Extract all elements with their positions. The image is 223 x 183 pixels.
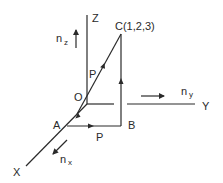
z-axis-label: Z <box>92 12 99 24</box>
point-a-label: A <box>53 119 61 131</box>
vector-oc: P <box>77 34 121 114</box>
ny-base-label: n <box>181 85 187 97</box>
vector-oc-label: P <box>89 68 96 80</box>
nx-base-label: n <box>60 153 66 165</box>
z-axis: Z <box>87 12 99 104</box>
segment-bc <box>119 34 124 126</box>
y-axis: Y <box>87 100 210 112</box>
vector-ab-label: P <box>96 131 103 143</box>
nx-sub-label: x <box>68 158 72 167</box>
vector-diagram: Z Y X n z n y n x P P <box>0 0 223 183</box>
unit-vector-nx: n x <box>53 140 72 167</box>
point-o-label: O <box>74 91 83 103</box>
arrowhead-icon <box>100 63 105 69</box>
x-axis-label: X <box>13 166 21 178</box>
vector-ab: P <box>67 124 121 144</box>
nz-base-label: n <box>56 32 62 44</box>
unit-vector-ny: n y <box>141 85 193 99</box>
arrow-down-left-icon <box>53 140 67 154</box>
y-axis-label: Y <box>202 100 210 112</box>
arrowhead-icon <box>119 78 124 84</box>
x-axis: X <box>13 104 87 178</box>
unit-vector-nz: n z <box>56 30 76 48</box>
diagram-canvas: Z Y X n z n y n x P P <box>0 0 223 183</box>
ny-sub-label: y <box>189 90 193 99</box>
nz-sub-label: z <box>64 38 68 47</box>
point-c-label: C(1,2,3) <box>115 20 155 32</box>
arrowhead-icon <box>88 124 94 129</box>
point-b-label: B <box>128 119 135 131</box>
